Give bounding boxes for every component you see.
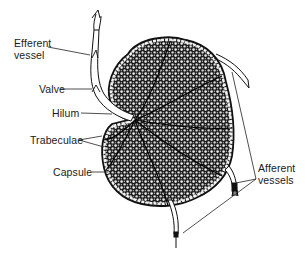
label-efferent-vessel-line1: Efferent <box>14 37 51 49</box>
label-afferent-vessels-line1: Afferent <box>258 162 295 174</box>
leader-hilum <box>81 113 112 114</box>
label-efferent-vessel: Efferent vessel <box>14 37 51 61</box>
label-afferent-vessels-line2: vessels <box>258 174 295 186</box>
label-trabeculae: Trabeculae <box>30 134 83 146</box>
lymph-node-diagram: Efferent vessel Valve Hilum Trabeculae C… <box>0 0 307 266</box>
label-capsule: Capsule <box>53 166 92 178</box>
label-valve: Valve <box>39 83 65 95</box>
leader-efferent-vessel <box>48 47 90 55</box>
afferent-vessel-bottom <box>168 200 178 248</box>
label-hilum: Hilum <box>52 107 79 119</box>
afferent-vessel-lower-right <box>225 166 238 196</box>
label-efferent-vessel-line2: vessel <box>14 49 51 61</box>
leader-afferent-upper <box>232 72 256 179</box>
label-afferent-vessels: Afferent vessels <box>258 162 295 186</box>
lymph-node-body <box>102 37 234 206</box>
